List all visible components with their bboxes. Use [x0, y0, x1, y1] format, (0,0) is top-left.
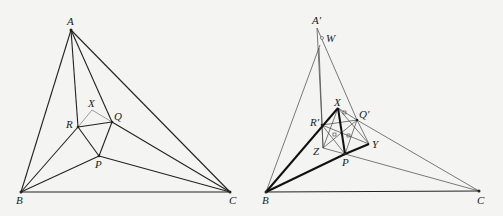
edge-CP — [99, 156, 230, 192]
point-W-marker — [321, 37, 324, 40]
edge-XR — [78, 110, 92, 127]
label-X: X — [333, 96, 342, 108]
edge-RP — [78, 127, 99, 156]
bold-BX — [266, 108, 338, 192]
label-X: X — [87, 97, 96, 109]
edge-ZP — [323, 148, 345, 154]
left-figure — [20, 29, 232, 194]
edge-BP — [21, 156, 99, 192]
right-figure — [265, 28, 481, 194]
edge-RZ — [322, 125, 323, 148]
label-R-prime: R′ — [309, 116, 320, 128]
label-W: W — [326, 32, 336, 44]
edge-RQ — [78, 122, 112, 127]
bold-PY — [345, 144, 369, 154]
label-A: A — [66, 15, 74, 27]
label-Q: Q — [114, 110, 122, 122]
edge-QP — [99, 122, 112, 156]
edge-BR — [21, 127, 78, 192]
label-C: C — [229, 194, 237, 206]
label-A-prime: A′ — [311, 14, 322, 26]
edge-CQ — [357, 120, 479, 191]
label-Y: Y — [372, 138, 380, 150]
edge-RY — [322, 125, 369, 144]
label-R: R — [65, 118, 73, 130]
edge-BC — [266, 191, 479, 192]
label-B: B — [16, 194, 23, 206]
label-C: C — [477, 194, 485, 206]
edge-CP — [345, 154, 479, 191]
edge-AB — [21, 30, 71, 192]
label-P: P — [341, 156, 349, 168]
label-B: B — [262, 194, 269, 206]
geometry-diagram: A B C R Q P X — [0, 0, 503, 216]
left-labels: A B C R Q P X — [16, 15, 237, 206]
label-Z: Z — [313, 145, 320, 157]
label-Q-prime: Q′ — [359, 108, 370, 120]
right-angle-marker — [333, 133, 336, 136]
label-P: P — [94, 158, 102, 170]
